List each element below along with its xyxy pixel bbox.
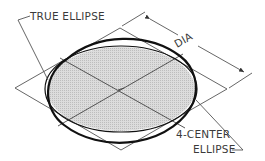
true-ellipse-label: TRUE ELLIPSE (29, 10, 105, 22)
dia-extension-right (229, 73, 252, 88)
four-center-label-line2: ELLIPSE (193, 143, 235, 155)
isometric-ellipse-diagram: DIA TRUE ELLIPSE 4-CENTER ELLIPSE (0, 0, 265, 161)
dia-dimension-line-lower (198, 46, 244, 72)
four-center-label-line1: 4-CENTER (176, 128, 230, 140)
dia-dimension-line-upper (150, 19, 178, 35)
dia-extension-top (122, 12, 145, 26)
dia-label: DIA (172, 30, 195, 50)
true-ellipse-leader (18, 16, 48, 80)
